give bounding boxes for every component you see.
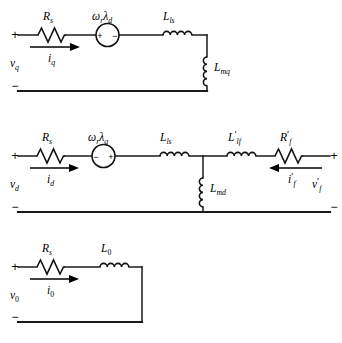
source-polarity-right-d: + bbox=[108, 152, 113, 162]
label-voltage-vq: vq bbox=[10, 57, 19, 72]
label-inductor-lls-q: Lls bbox=[162, 10, 175, 25]
label-source-d: ωrλq bbox=[88, 131, 108, 146]
label-resistor-rs-q: Rs bbox=[42, 10, 53, 25]
resistor-rs-symbol-0 bbox=[37, 260, 65, 274]
label-inductor-lmq-q: Lmq bbox=[213, 61, 230, 76]
label-inductor-lf-d: L′lf bbox=[227, 129, 243, 146]
source-polarity-left-q: + bbox=[97, 31, 102, 41]
terminal-plus-0: + bbox=[11, 260, 18, 274]
terminal-minus-q: − bbox=[11, 79, 18, 93]
inductor-lls-symbol-q bbox=[163, 31, 192, 35]
label-voltage-vd: vd bbox=[10, 178, 19, 193]
label-resistor-rf-d: R′f bbox=[279, 129, 293, 146]
label-current-id: id bbox=[47, 173, 54, 188]
terminal-minus-d-right: − bbox=[330, 200, 337, 214]
source-polarity-right-q: − bbox=[112, 31, 117, 41]
terminal-minus-d: − bbox=[11, 200, 18, 214]
label-voltage-vf: v′f bbox=[312, 176, 323, 193]
label-current-if: i′f bbox=[288, 171, 297, 188]
terminal-plus-q: + bbox=[11, 28, 18, 42]
resistor-rs-symbol-q bbox=[38, 28, 66, 42]
source-polarity-left-d: − bbox=[93, 152, 98, 162]
circuit-d-axis: Rs − + ωrλq Lls Lmd L′lf R′f bbox=[10, 129, 338, 214]
label-voltage-v0: v0 bbox=[10, 289, 19, 304]
current-arrow-head-q bbox=[70, 43, 80, 51]
inductor-lmd-symbol-d bbox=[199, 178, 203, 207]
terminal-plus-d-right: + bbox=[330, 149, 337, 163]
current-arrow-head-d bbox=[69, 164, 79, 172]
label-inductor-l0: L0 bbox=[100, 242, 111, 257]
current-arrow-head-if bbox=[269, 164, 279, 172]
current-arrow-head-0 bbox=[69, 275, 79, 283]
inductor-l0-symbol-0 bbox=[100, 263, 129, 267]
inductor-lls-symbol-d bbox=[160, 152, 189, 156]
circuit-zero-sequence: Rs L0 + − v0 i0 bbox=[10, 242, 142, 324]
label-resistor-rs-0: Rs bbox=[41, 242, 52, 257]
label-current-iq: iq bbox=[48, 52, 55, 67]
label-resistor-rs-d: Rs bbox=[41, 131, 52, 146]
label-inductor-lmd-d: Lmd bbox=[209, 182, 226, 197]
inductor-lmq-symbol-q bbox=[203, 57, 207, 86]
label-inductor-lls-d: Lls bbox=[159, 131, 172, 146]
resistor-rf-symbol-d bbox=[275, 149, 303, 163]
inductor-lf-symbol-d bbox=[227, 152, 256, 156]
terminal-plus-d: + bbox=[11, 149, 18, 163]
label-source-q: ωrλd bbox=[92, 10, 112, 25]
terminal-minus-0: − bbox=[11, 310, 18, 324]
circuit-q-axis: Rs + − ωrλd Lls Lmq + − vq i bbox=[10, 10, 230, 93]
label-current-i0: i0 bbox=[47, 284, 54, 299]
resistor-rs-symbol-d bbox=[37, 149, 65, 163]
circuit-figure: Rs + − ωrλd Lls Lmq + − vq i bbox=[0, 0, 342, 343]
